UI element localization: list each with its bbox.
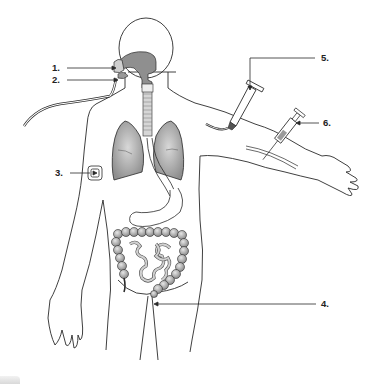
forearm-veins xyxy=(246,146,298,169)
transdermal-patch xyxy=(88,166,102,180)
label-6: 6. xyxy=(323,118,331,128)
label-2: 2. xyxy=(52,75,60,85)
corner-artifact xyxy=(0,376,20,384)
label-4: 4. xyxy=(321,299,329,309)
left-lung xyxy=(112,121,143,180)
body-diagram xyxy=(0,0,374,384)
oxygen-tube xyxy=(24,78,116,126)
syringe xyxy=(258,108,305,163)
leader-lines xyxy=(67,58,319,306)
label-3: 3. xyxy=(55,168,63,178)
label-1: 1. xyxy=(52,63,60,73)
iv-infusion-bag xyxy=(206,80,264,130)
label-5: 5. xyxy=(321,53,329,63)
right-lung xyxy=(154,121,184,180)
intestines xyxy=(112,228,189,298)
body-outline xyxy=(48,18,358,360)
